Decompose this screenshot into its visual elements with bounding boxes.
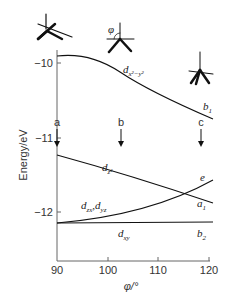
marker-a: a — [54, 116, 61, 147]
y-tick-label: −11 — [35, 132, 53, 144]
phi-label: φ — [108, 23, 114, 35]
marker-b: b — [118, 116, 124, 147]
planar-structure-icon — [38, 14, 72, 39]
x-axis-label: φ/° — [124, 280, 139, 292]
y-tick-label: −10 — [34, 57, 53, 69]
curve-dz2 — [57, 155, 213, 203]
energy-level-chart: φ −10 −11 −12 90 100 110 120 φ/° Energy/… — [0, 0, 226, 301]
label-e: e — [200, 171, 205, 183]
svg-text:c: c — [198, 116, 204, 128]
label-dzx-dyz: dzx,dyz — [81, 199, 107, 214]
curve-dxy — [57, 222, 213, 223]
label-b1: b1 — [203, 100, 212, 115]
svg-text:b: b — [118, 116, 124, 128]
svg-text:a: a — [54, 116, 61, 128]
label-dz2: dz² — [102, 161, 113, 176]
label-a1: a1 — [197, 197, 206, 212]
x-tick-label: 100 — [99, 264, 117, 276]
x-tick-label: 90 — [51, 264, 63, 276]
y-axis-label: Energy/eV — [17, 129, 29, 181]
x-tick-label: 120 — [200, 264, 218, 276]
curve-dx2y2 — [57, 55, 213, 119]
label-dxy: dxy — [118, 227, 131, 242]
pyramidal-structure-icon — [189, 52, 213, 84]
x-tick-label: 110 — [149, 264, 167, 276]
y-tick-label: −12 — [34, 206, 53, 218]
marker-c: c — [198, 116, 204, 147]
label-b2: b2 — [197, 227, 207, 242]
